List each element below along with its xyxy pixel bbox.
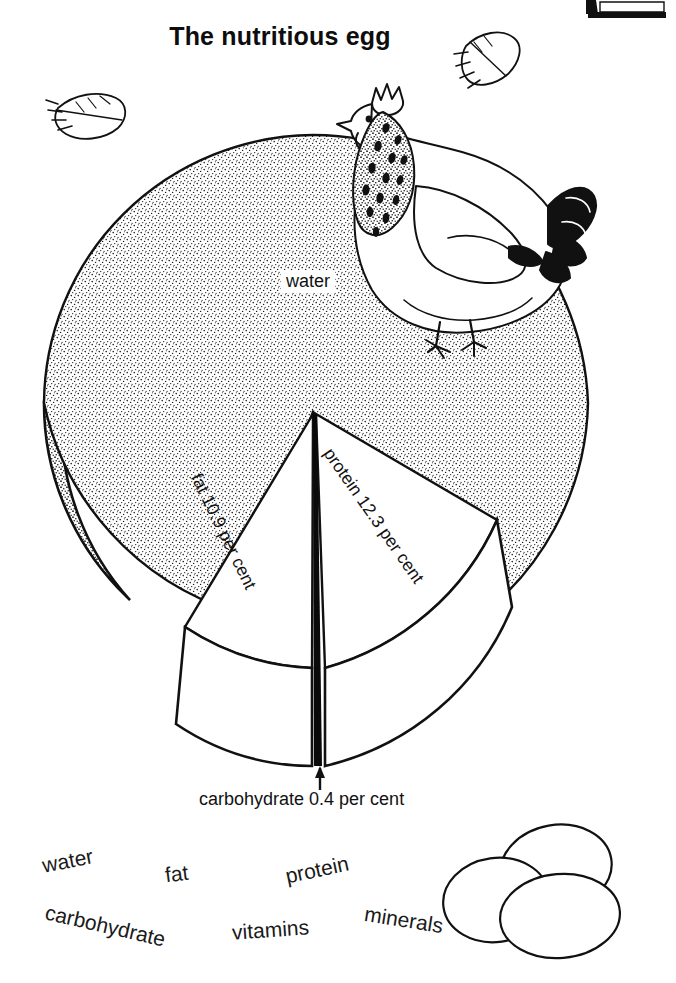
feather-illustration (454, 32, 520, 88)
cropped-illustration (586, 0, 666, 18)
carbohydrate-arrow-icon (315, 766, 325, 790)
illustration-canvas (0, 0, 676, 983)
page-root: The nutritious egg (0, 0, 676, 983)
pie-label-water: water (281, 270, 335, 293)
eggs-illustration (438, 816, 624, 963)
word-item-fat: fat (164, 861, 190, 888)
pie-label-carbohydrate: carbohydrate 0.4 per cent (199, 789, 404, 810)
feather-illustration (46, 94, 125, 139)
